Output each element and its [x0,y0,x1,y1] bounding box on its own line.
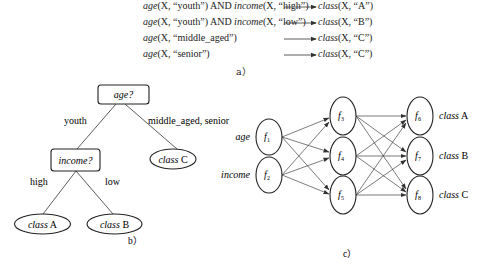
output-label-class-b: class B [439,150,469,161]
caption-c: c） [343,248,357,259]
nn-node-f8: f8 [407,176,433,214]
nn-node-f7: f7 [407,137,433,175]
output-label-class-a: class A [439,110,469,121]
nn-node-f1: f1 [256,119,282,155]
node-subscript: 8 [418,195,421,201]
label-letter: B [459,150,469,161]
nn-node-f6: f6 [407,97,433,135]
output-label-class-c: class C [439,189,469,200]
panel-c-neural-network: age income f1 f2 f3 f4 f5 f6 f7 f8 class… [0,0,480,273]
label-letter: A [459,110,469,121]
nn-node-f5: f5 [330,176,356,214]
node-subscript: 5 [341,195,344,201]
label-italic: class [439,189,459,200]
node-subscript: 1 [267,137,270,143]
node-subscript: 4 [341,156,344,162]
nn-node-f3: f3 [330,97,356,135]
node-subscript: 2 [267,175,270,181]
label-letter: C [459,189,469,200]
hidden-output-connections [356,116,406,195]
label-italic: class [439,110,459,121]
node-subscript: 7 [418,156,421,162]
input-label-income: income [221,169,250,180]
nn-node-f4: f4 [330,137,356,175]
input-label-age: age [236,131,251,142]
node-subscript: 3 [341,116,344,122]
input-hidden-connections [282,118,329,194]
node-subscript: 6 [418,116,421,122]
label-italic: class [439,150,459,161]
nn-node-f2: f2 [256,157,282,193]
